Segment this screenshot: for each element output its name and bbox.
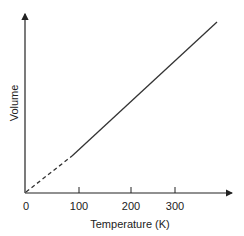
measured-solid-line	[72, 22, 217, 156]
chart: 0 100 200 300 Temperature (K) Volume	[0, 0, 244, 236]
y-axis-label: Volume	[8, 85, 20, 122]
x-axis-label: Temperature (K)	[90, 218, 169, 230]
x-tick-label-0: 0	[23, 200, 29, 212]
x-tick-label-200: 200	[122, 200, 140, 212]
x-tick-label-100: 100	[70, 200, 88, 212]
extrapolated-dashed-line	[26, 156, 72, 192]
x-tick-label-300: 300	[166, 200, 184, 212]
